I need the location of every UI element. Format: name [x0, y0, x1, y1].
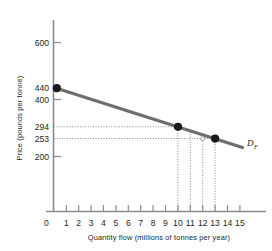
- data-point-open-12-253: [201, 137, 205, 141]
- x-tick-label-0: 0: [44, 218, 49, 228]
- data-point-440: [53, 84, 61, 92]
- y-tick-label-253: 253: [35, 134, 50, 144]
- y-tick-label-440: 440: [35, 83, 50, 93]
- x-tick-label-1: 1: [64, 218, 69, 228]
- x-tick-labels: 0 1 2 3 4 5 6 7 8 9 10 11 12 13 14 15: [44, 218, 245, 228]
- x-tick-label-9: 9: [163, 218, 168, 228]
- y-tick-label-600: 600: [35, 38, 50, 48]
- x-tick-label-5: 5: [114, 218, 119, 228]
- chart-figure: 600 440 400 294 253 200 0 1 2 3 4 5 6 7 …: [0, 0, 272, 251]
- x-tick-label-10: 10: [173, 218, 183, 228]
- x-tick-label-7: 7: [138, 218, 143, 228]
- demand-curve-label: D: [246, 138, 254, 148]
- curve-label-group: D F: [246, 138, 258, 150]
- y-axis-ticks: [54, 43, 62, 157]
- guide-lines-group: [54, 127, 216, 211]
- data-point-294: [174, 123, 182, 131]
- y-tick-label-294: 294: [35, 122, 50, 132]
- x-tick-label-3: 3: [89, 218, 94, 228]
- y-axis-title: Price (pounds per tonne): [15, 76, 24, 161]
- x-axis-ticks: [66, 205, 240, 212]
- x-tick-label-6: 6: [126, 218, 131, 228]
- x-tick-label-8: 8: [151, 218, 156, 228]
- x-tick-label-12: 12: [198, 218, 208, 228]
- x-tick-label-15: 15: [235, 218, 245, 228]
- x-tick-label-2: 2: [76, 218, 81, 228]
- y-tick-label-400: 400: [35, 95, 50, 105]
- demand-curve-label-subscript: F: [253, 144, 258, 150]
- y-tick-labels: 600 440 400 294 253 200: [35, 38, 50, 162]
- x-tick-label-11: 11: [186, 218, 195, 228]
- y-tick-label-200: 200: [35, 152, 50, 162]
- x-tick-label-14: 14: [223, 218, 233, 228]
- axes-group: [46, 20, 266, 212]
- x-tick-label-4: 4: [101, 218, 106, 228]
- x-tick-label-13: 13: [210, 218, 220, 228]
- data-point-253: [211, 135, 219, 143]
- x-axis-title: Quantity flow (millions of tonnes per ye…: [88, 233, 230, 242]
- demand-curve-chart: 600 440 400 294 253 200 0 1 2 3 4 5 6 7 …: [0, 0, 272, 251]
